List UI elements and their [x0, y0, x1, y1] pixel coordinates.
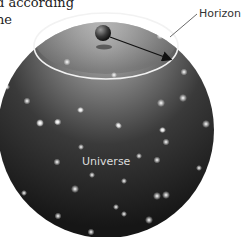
horizon-label: Horizon: [199, 7, 241, 20]
observer-shadow: [96, 45, 112, 50]
universe-diagram: [0, 0, 244, 237]
horizon-leader-line: [170, 14, 197, 37]
observer-ball: [95, 25, 111, 41]
universe-label: Universe: [82, 155, 130, 168]
